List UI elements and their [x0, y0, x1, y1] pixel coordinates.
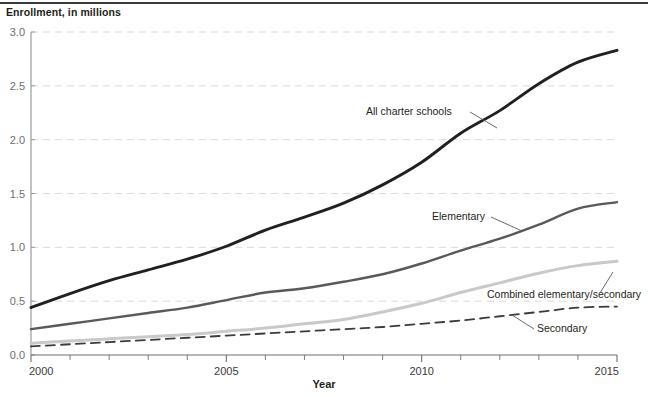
series-line-elementary [31, 202, 617, 329]
x-tick-label: 2005 [214, 365, 238, 377]
leader-line-elementary [491, 217, 522, 231]
y-tick-label: 2.5 [10, 80, 25, 92]
data-series-group [31, 50, 617, 346]
x-tick-label: 2015 [595, 365, 619, 377]
y-tick-label: 1.5 [10, 188, 25, 200]
y-tick-label: 0.0 [10, 349, 25, 361]
gridlines-group [31, 32, 617, 355]
series-label-all: All charter schools [366, 105, 452, 117]
x-tick-labels-group: 2000200520102015 [29, 365, 619, 377]
series-line-all-charter-schools [31, 50, 617, 307]
series-label-secondary: Secondary [537, 322, 588, 334]
x-tick-label: 2000 [29, 365, 53, 377]
x-axis-title: Year [0, 378, 648, 390]
series-label-elementary: Elementary [432, 210, 486, 222]
y-tick-label: 3.0 [10, 26, 25, 38]
series-line-secondary [31, 307, 617, 347]
enrollment-line-chart: 0.00.51.01.52.02.53.0 2000200520102015 A… [0, 0, 648, 397]
y-tick-label: 2.0 [10, 134, 25, 146]
leader-line-secondary [512, 315, 534, 329]
series-label-combined: Combined elementary/secondary [487, 288, 642, 300]
x-tick-label: 2010 [409, 365, 433, 377]
y-tick-label: 0.5 [10, 295, 25, 307]
x-axis-group [31, 355, 617, 362]
y-tick-label: 1.0 [10, 241, 25, 253]
chart-plot-area: 0.00.51.01.52.02.53.0 2000200520102015 A… [0, 0, 648, 397]
